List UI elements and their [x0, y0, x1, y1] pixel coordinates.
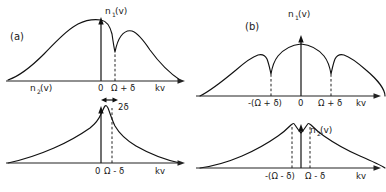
b-top-fn-base: n	[288, 9, 294, 19]
a-bottom-curve	[8, 106, 180, 163]
b-top-x-axis-arrowhead	[374, 93, 382, 98]
a-bottom-width-arrowhead-left	[101, 98, 107, 103]
a-bottom-fn-tail: (v)	[40, 83, 52, 93]
b-top-tick-neg-omega-plus-delta: -(Ω + δ)	[248, 98, 282, 108]
a-bottom-tick-omega-minus-delta: Ω - δ	[104, 166, 124, 176]
a-top-fn-tail: (v)	[115, 6, 127, 16]
a-top-tick-omega-plus-delta: Ω + δ	[111, 83, 135, 93]
figure-container: (a) n 1 (v) 0 Ω + δ kv	[0, 0, 386, 192]
b-top-curve	[200, 44, 385, 96]
a-bottom-width-label: 2δ	[118, 102, 129, 112]
b-top-tick-0: 0	[298, 98, 303, 108]
panel-a-label: (a)	[10, 31, 24, 42]
a-bottom-function-label: n 2 (v)	[30, 83, 52, 95]
plot-a-top: n 1 (v) 0 Ω + δ kv	[6, 6, 185, 93]
b-top-axis-label: kv	[356, 98, 366, 108]
b-bottom-tick-omega-minus-delta: Ω - δ	[305, 171, 325, 181]
a-top-x-axis-arrowhead	[178, 78, 186, 83]
panel-a: (a) n 1 (v) 0 Ω + δ kv	[6, 6, 185, 176]
b-bottom-x-axis-arrowhead	[374, 165, 382, 170]
a-top-fn-base: n	[105, 6, 111, 16]
a-bottom-tick-0: 0	[95, 166, 100, 176]
a-bottom-axis-label: kv	[155, 166, 165, 176]
a-bottom-fn-base: n	[30, 83, 36, 93]
b-top-function-label: n 1 (v)	[288, 9, 310, 21]
b-bottom-fn-tail: (v)	[320, 125, 332, 135]
b-top-axis-arrowhead	[298, 35, 303, 43]
b-bottom-tick-neg-omega-minus-delta: -(Ω - δ)	[265, 171, 295, 181]
a-top-function-label: n 1 (v)	[105, 6, 127, 18]
b-top-tick-omega-plus-delta: Ω + δ	[318, 98, 342, 108]
a-top-tick-0: 0	[98, 83, 103, 93]
plot-a-bottom: n 2 (v) 2δ 0 Ω - δ kv	[6, 83, 185, 176]
panel-b-label: (b)	[245, 21, 259, 32]
plot-b-bottom: n 2 (v) -(Ω - δ) Ω - δ kv	[196, 124, 385, 182]
a-bottom-x-axis-arrowhead	[178, 160, 186, 165]
a-top-curve	[8, 20, 180, 80]
plot-b-top: n 1 (v) -(Ω + δ) 0 Ω + δ kv	[196, 9, 385, 108]
a-bottom-width-annotation: 2δ	[101, 98, 129, 112]
panel-b: (b) n 1 (v) -(Ω + δ) 0 Ω + δ kv	[196, 9, 385, 181]
b-top-fn-tail: (v)	[298, 9, 310, 19]
b-bottom-zero-arrowhead	[298, 124, 303, 132]
b-bottom-axis-label: kv	[356, 171, 366, 181]
figure-svg: (a) n 1 (v) 0 Ω + δ kv	[0, 0, 386, 192]
a-top-axis-label: kv	[155, 83, 165, 93]
